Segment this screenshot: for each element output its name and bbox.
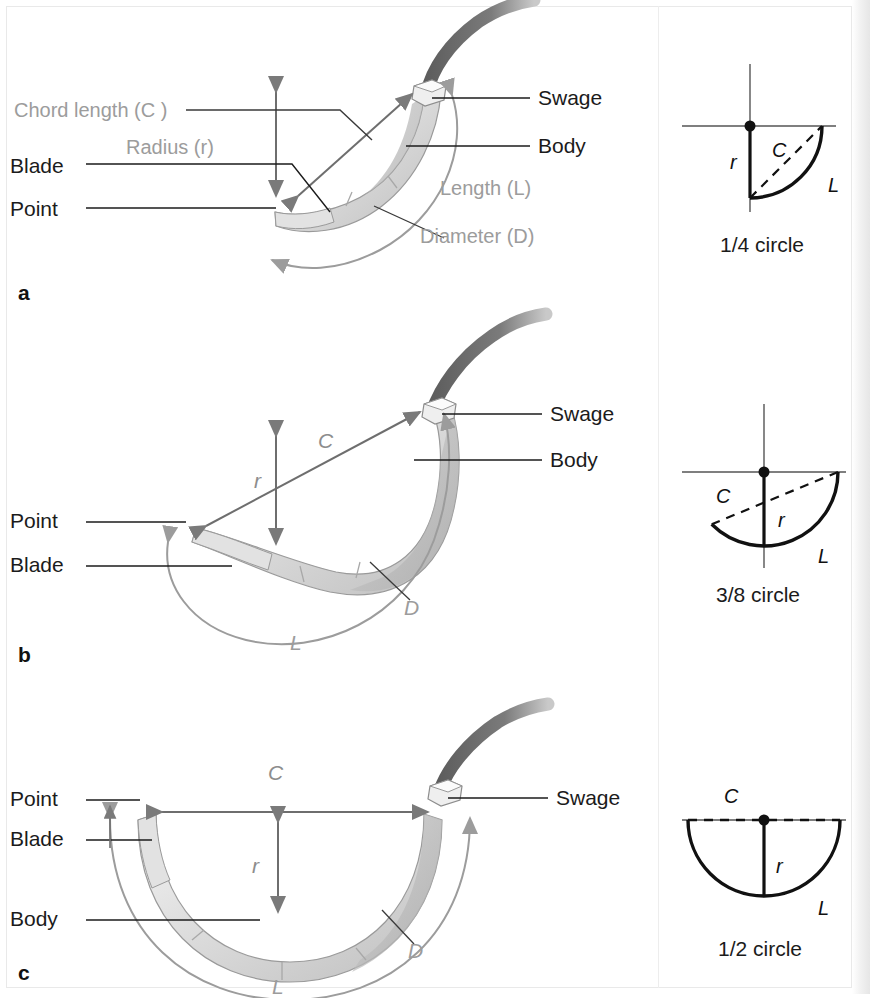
label-blade-c: Blade (10, 828, 64, 849)
panel-letter-c: c (18, 962, 30, 983)
suture-thread-a (427, 0, 534, 92)
label-point-c: Point (10, 788, 58, 809)
label-body-c: Body (10, 908, 58, 929)
label-length-c: L (272, 976, 284, 997)
panel-letter-a: a (18, 282, 30, 303)
half-circle-diagram (682, 815, 846, 897)
three-eighths-circle-diagram (682, 404, 846, 568)
label-point-b: Point (10, 510, 58, 531)
label-point-a: Point (10, 198, 58, 219)
chord-arrow-b (206, 412, 420, 526)
label-chord-length-a: Chord length (C ) (14, 100, 167, 120)
threeeighths-radius-label: r (778, 510, 785, 530)
needle-body-c (138, 814, 442, 982)
label-blade-a: Blade (10, 155, 64, 176)
quarter-length-label: L (828, 175, 839, 195)
label-body-b: Body (550, 449, 598, 470)
label-diameter-b: D (404, 597, 419, 618)
threeeighths-circle-caption: 3/8 circle (716, 584, 800, 605)
label-swage-c: Swage (556, 787, 620, 808)
leader-chord-a (186, 110, 372, 140)
label-diameter-a: Diameter (D) (420, 226, 534, 246)
label-swage-a: Swage (538, 87, 602, 108)
half-circle-caption: 1/2 circle (718, 938, 802, 959)
threeeighths-length-label: L (818, 546, 829, 566)
label-diameter-c: D (408, 940, 423, 961)
label-chord-c: C (268, 762, 283, 783)
quarter-chord-label: C (772, 140, 786, 160)
panel-b-illustration (86, 314, 546, 644)
label-length-a: Length (L) (440, 178, 531, 198)
label-blade-b: Blade (10, 554, 64, 575)
leader-blade-a (86, 164, 330, 212)
chord-dashed-threeeighths (712, 472, 838, 524)
label-radius-c: r (252, 855, 259, 876)
quarter-circle-caption: 1/4 circle (720, 234, 804, 255)
quarter-circle-diagram (682, 64, 836, 212)
label-body-a: Body (538, 135, 586, 156)
arc-threeeighths (712, 472, 838, 546)
label-radius-a: Radius (r) (126, 137, 214, 157)
suture-thread-c (440, 704, 548, 790)
half-radius-label: r (776, 856, 783, 876)
panel-letter-b: b (18, 644, 31, 665)
label-chord-b: C (318, 430, 333, 451)
half-length-label: L (818, 898, 829, 918)
suture-thread-b (432, 314, 546, 412)
quarter-radius-label: r (730, 152, 737, 172)
label-radius-b: r (254, 470, 261, 491)
label-length-b: L (290, 632, 302, 653)
panel-c-illustration (86, 704, 548, 998)
half-chord-label: C (724, 786, 738, 806)
needle-blade-c (138, 814, 170, 888)
threeeighths-chord-label: C (716, 486, 730, 506)
label-swage-b: Swage (550, 403, 614, 424)
needle-blade-b (192, 528, 272, 570)
